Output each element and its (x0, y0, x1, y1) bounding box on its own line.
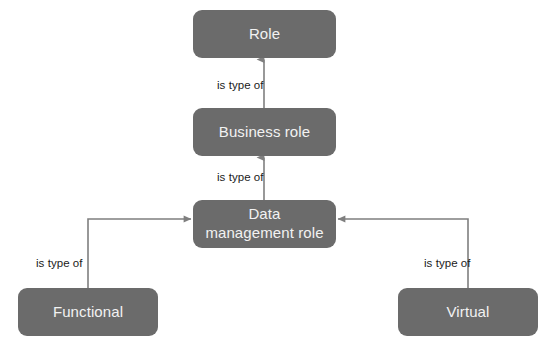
edge-functional-to-data (88, 219, 191, 288)
node-functional[interactable]: Functional (18, 288, 158, 336)
edge-virtual-to-data (338, 219, 468, 288)
edge-label-business-to-role: is type of (217, 80, 264, 92)
node-virtual[interactable]: Virtual (398, 288, 538, 336)
edge-label-data-to-business: is type of (217, 172, 264, 184)
node-data-management-role[interactable]: Data management role (193, 200, 336, 248)
node-business-role[interactable]: Business role (193, 108, 336, 156)
node-role-label: Role (243, 25, 286, 44)
node-functional-label: Functional (47, 303, 129, 322)
node-virtual-label: Virtual (441, 303, 496, 322)
edge-label-virtual-to-data: is type of (424, 258, 471, 270)
edge-label-functional-to-data: is type of (36, 258, 83, 270)
node-business-role-label: Business role (213, 123, 316, 142)
diagram-canvas: Role Business role Data management role … (0, 0, 548, 355)
node-data-management-role-label: Data management role (199, 205, 329, 243)
node-role[interactable]: Role (193, 10, 336, 58)
